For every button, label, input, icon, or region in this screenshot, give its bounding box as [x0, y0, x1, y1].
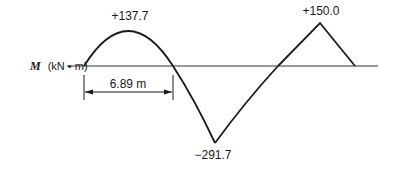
- arrowhead-left-icon: [85, 90, 93, 95]
- axis-symbol: M: [29, 59, 41, 73]
- dimension-marker: 6.89 m: [84, 75, 173, 100]
- bending-moment-diagram: M (kN • m) +137.7 −291.7 +150.0 6.89 m: [0, 0, 396, 170]
- positive-moment-curve-1: [84, 31, 173, 66]
- axis-label: M (kN • m): [29, 56, 88, 73]
- positive-moment-triangle: [278, 23, 355, 66]
- min-value-label: −291.7: [194, 148, 231, 162]
- peak-value-label-2: +150.0: [302, 4, 339, 18]
- negative-moment-curve-left: [173, 66, 215, 143]
- dimension-label: 6.89 m: [110, 77, 147, 91]
- arrowhead-right-icon: [164, 90, 172, 95]
- peak-value-label-1: +137.7: [111, 9, 148, 23]
- negative-moment-curve-right: [215, 66, 278, 143]
